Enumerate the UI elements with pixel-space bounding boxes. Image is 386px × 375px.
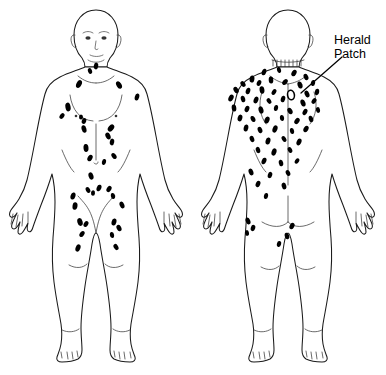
body-distribution-diagram: Herald Patch <box>0 0 386 375</box>
anterior-body <box>10 67 183 362</box>
anterior-eye-left <box>85 36 90 39</box>
anterior-nipple-right <box>115 115 118 118</box>
posterior-head <box>266 10 310 67</box>
anterior-nipple-left <box>75 115 78 118</box>
anterior-head <box>74 10 118 67</box>
pityriasis-rosea-figure: Herald Patch <box>0 0 386 375</box>
herald-patch-label-line2: Patch <box>334 47 366 61</box>
herald-patch-annotation: Herald Patch <box>301 33 371 93</box>
posterior-view <box>202 10 375 362</box>
lesion-spot <box>79 114 83 119</box>
anterior-view <box>10 10 183 362</box>
anterior-eye-right <box>101 36 106 39</box>
lesion-spot <box>227 94 234 103</box>
herald-patch-label-line1: Herald <box>334 33 371 47</box>
